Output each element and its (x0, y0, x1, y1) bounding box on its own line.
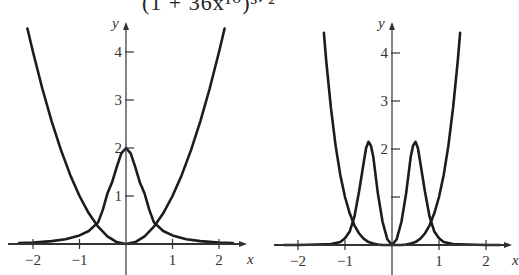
x-tick-label: −1 (72, 252, 88, 268)
y-tick-label: 1 (115, 188, 123, 204)
x-tick-label: −2 (290, 253, 306, 269)
y-axis-label: y (376, 15, 385, 31)
x-tick-label: −2 (25, 252, 41, 268)
x-tick-label: 1 (169, 252, 177, 268)
y-tick-label: 3 (381, 93, 389, 109)
y-tick-label: 2 (381, 141, 389, 157)
y-tick-label: 3 (115, 92, 123, 108)
x-axis-label: x (246, 251, 254, 267)
left-chart: −2−1121234xy (8, 15, 254, 275)
x-tick-label: 2 (215, 252, 223, 268)
x-tick-label: 1 (435, 253, 443, 269)
y-tick-label: 4 (381, 45, 389, 61)
y-tick-label: 4 (115, 44, 123, 60)
right-chart: −2−112234xy (274, 15, 519, 275)
x-axis-label: x (511, 252, 519, 268)
y-axis-label: y (110, 15, 119, 31)
x-tick-label: 2 (482, 253, 490, 269)
y-tick-label: 2 (115, 140, 123, 156)
charts-canvas: −2−1121234xy −2−112234xy (0, 0, 519, 275)
x-tick-label: −1 (337, 253, 353, 269)
